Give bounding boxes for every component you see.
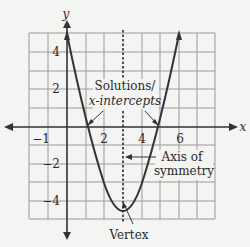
x-axis (4, 123, 238, 131)
y-tick-neg4: −4 (42, 194, 60, 208)
solutions-label-line1: Solutions/ (95, 79, 157, 93)
y-axis (63, 20, 71, 240)
x-tick-2: 2 (100, 132, 108, 146)
vertex-label: Vertex (108, 228, 148, 242)
x-axis-label: x (240, 120, 247, 134)
x-tick-4: 4 (138, 132, 146, 146)
axis-sym-arrowhead-icon (125, 154, 132, 160)
y-tick-neg2: −2 (42, 157, 60, 171)
x-tick-neg1: −1 (32, 132, 50, 146)
parabola-chart: −1 2 4 6 4 2 −2 −4 y x Solutions/ x-inte… (0, 0, 250, 247)
y-tick-2: 2 (52, 82, 60, 96)
x-axis-right-arrow-icon (229, 123, 238, 131)
axis-sym-label-line2: symmetry (154, 164, 214, 178)
curve-left-arrow-icon (64, 30, 70, 40)
solutions-label-line2: x-intercepts (89, 94, 161, 108)
y-axis-up-arrow-icon (63, 20, 71, 28)
curve-right-arrow-icon (176, 30, 182, 40)
x-axis-left-arrow-icon (4, 123, 13, 131)
grid (29, 33, 215, 219)
axis-sym-label-line1: Axis of (161, 150, 204, 164)
x-tick-6: 6 (176, 132, 184, 146)
y-axis-label: y (62, 7, 70, 21)
y-tick-4: 4 (52, 45, 60, 59)
y-axis-down-arrow-icon (63, 232, 71, 240)
